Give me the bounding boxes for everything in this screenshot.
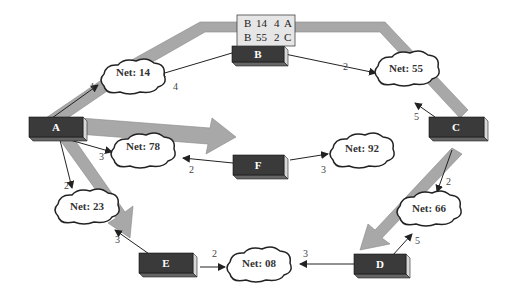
svg-text:B: B <box>244 31 251 43</box>
svg-text:D: D <box>376 258 384 270</box>
network-cloud-08[interactable]: Net: 08 <box>227 247 291 282</box>
svg-text:B: B <box>254 48 262 60</box>
cost-e-n08: 2 <box>212 248 217 259</box>
cost-f-n92: 3 <box>321 164 326 175</box>
svg-text:Net: 14: Net: 14 <box>116 66 150 78</box>
svg-text:Net: 08: Net: 08 <box>242 257 276 269</box>
router-a[interactable]: A <box>29 117 87 141</box>
network-diagram: 1 4 2 5 3 2 3 2 3 2 5 2 3 Net: 14 Net: 5… <box>0 0 513 295</box>
network-cloud-14[interactable]: Net: 14 <box>101 59 165 94</box>
cost-b-n55: 2 <box>343 61 348 72</box>
svg-text:A: A <box>52 121 60 133</box>
svg-text:C: C <box>284 31 291 43</box>
cost-f-n78: 2 <box>189 164 194 175</box>
routing-table: B 14 4 A B 55 2 C <box>237 15 295 46</box>
svg-text:Net: 23: Net: 23 <box>70 200 104 212</box>
network-cloud-55[interactable]: Net: 55 <box>375 51 439 86</box>
svg-text:E: E <box>162 257 169 269</box>
router-e[interactable]: E <box>139 253 197 277</box>
cost-a-n78: 3 <box>99 151 104 162</box>
svg-text:Net: 55: Net: 55 <box>389 62 423 74</box>
network-cloud-23[interactable]: Net: 23 <box>55 189 119 224</box>
svg-text:Net: 66: Net: 66 <box>412 202 446 214</box>
svg-text:F: F <box>255 159 262 171</box>
network-cloud-78[interactable]: Net: 78 <box>111 133 175 168</box>
svg-text:C: C <box>452 121 460 133</box>
svg-text:14: 14 <box>256 17 268 29</box>
svg-text:A: A <box>284 17 292 29</box>
cost-d-n66: 5 <box>415 235 420 246</box>
network-cloud-92[interactable]: Net: 92 <box>330 133 394 168</box>
cost-a-n14: 1 <box>90 81 95 92</box>
svg-text:2: 2 <box>274 31 280 43</box>
cost-c-n55: 5 <box>414 111 419 122</box>
svg-text:Net: 92: Net: 92 <box>345 142 379 154</box>
cost-c-n66: 2 <box>446 176 451 187</box>
router-c[interactable]: C <box>429 117 488 141</box>
cost-a-n23: 2 <box>64 180 69 191</box>
router-d[interactable]: D <box>354 254 410 278</box>
svg-text:55: 55 <box>256 31 268 43</box>
cost-d-n08: 3 <box>303 248 308 259</box>
svg-text:4: 4 <box>274 17 280 29</box>
svg-text:B: B <box>244 17 251 29</box>
router-f[interactable]: F <box>233 155 288 179</box>
cost-b-n14: 4 <box>173 81 178 92</box>
cost-e-n23: 3 <box>115 234 120 245</box>
router-b[interactable]: B <box>232 46 288 66</box>
svg-text:Net: 78: Net: 78 <box>126 140 160 152</box>
